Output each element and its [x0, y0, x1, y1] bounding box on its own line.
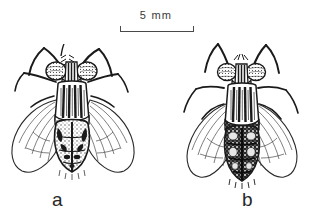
- scale-bar: 5 mm: [118, 10, 194, 32]
- fly-illustration-b: [176, 42, 311, 194]
- figure-panel: 5 mm: [0, 0, 311, 221]
- specimen-label-a: a: [52, 190, 63, 210]
- specimen-label-b: b: [242, 190, 253, 210]
- scale-bar-rule: [120, 26, 194, 32]
- fly-illustration-a: [4, 44, 144, 194]
- fly-a-abdomen: [55, 120, 90, 181]
- scale-bar-label: 5 mm: [118, 9, 194, 21]
- fly-b-abdomen: [225, 126, 260, 190]
